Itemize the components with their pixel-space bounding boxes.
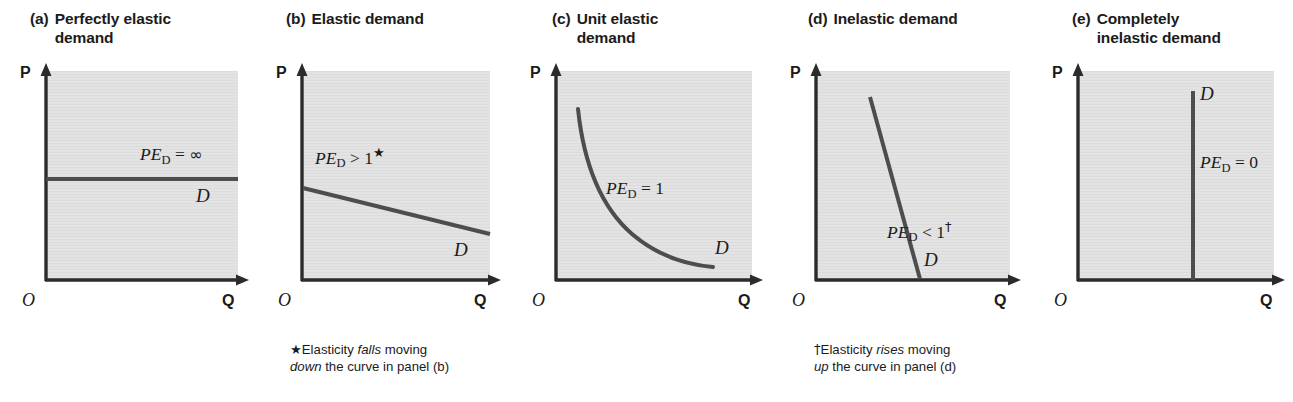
panel-e-title-line2: inelastic demand (1097, 29, 1221, 46)
x-axis-label: Q (738, 292, 750, 310)
panel-d-title: (d) Inelastic demand (808, 10, 1023, 29)
x-axis-label: Q (222, 292, 234, 310)
y-axis-label: P (530, 64, 541, 82)
x-axis-arrow (750, 275, 763, 286)
panel-e-title-text: Completely inelastic demand (1097, 10, 1287, 48)
origin-label: O (532, 290, 545, 311)
footnote-b-text2: moving (381, 342, 427, 357)
panel-b-svg (258, 62, 510, 324)
origin-label: O (22, 290, 35, 311)
x-axis-arrow (1272, 275, 1285, 286)
panel-b-footnote: ★Elasticity falls moving down the curve … (290, 342, 449, 376)
footnote-d-text2: moving (904, 342, 950, 357)
panel-c-title: (c) Unit elastic demand (552, 10, 752, 48)
demand-label-e: D (1200, 84, 1214, 103)
panel-e-title-line1: Completely (1097, 10, 1180, 27)
elasticity-figure: (a) Perfectly elastic demand P Q O (0, 0, 1293, 402)
origin-label: O (1054, 290, 1067, 311)
x-axis-arrow (236, 275, 249, 286)
panel-d-tag: (d) (808, 10, 828, 29)
elasticity-label-e: PED = 0 (1200, 154, 1258, 174)
y-axis-arrow (1073, 63, 1084, 76)
panel-b-title: (b) Elastic demand (286, 10, 501, 29)
star-marker-inline: ★ (373, 145, 385, 160)
panel-a-title-line2: demand (55, 29, 114, 46)
y-axis-arrow (41, 63, 52, 76)
demand-label-c: D (715, 238, 729, 257)
y-axis-label: P (276, 64, 287, 82)
footnote-b-text3: the curve in panel (b) (322, 359, 450, 374)
panel-e-svg (1030, 62, 1293, 324)
x-axis-label: Q (474, 292, 486, 310)
panel-c-title-line2: demand (577, 29, 636, 46)
footnote-d-em2: up (814, 359, 829, 374)
panel-a-tag: (a) (30, 10, 49, 29)
panel-e-tag: (e) (1072, 10, 1091, 29)
panel-e-title: (e) Completely inelastic demand (1072, 10, 1287, 48)
y-axis-arrow (551, 63, 562, 76)
y-axis-label: P (20, 64, 31, 82)
footnote-d-em1: rises (876, 342, 904, 357)
dagger-marker-inline: † (945, 219, 952, 234)
demand-label-b: D (454, 240, 468, 259)
panel-d-plot: P Q O PED < 1† (772, 62, 1030, 324)
elasticity-label-b: PED > 1★ (315, 146, 385, 170)
origin-label: O (278, 290, 291, 311)
panel-d-title-text: Inelastic demand (834, 10, 1024, 29)
panel-c-title-text: Unit elastic demand (577, 10, 752, 48)
panel-c-plot: P Q O PED = 1 D (510, 62, 772, 324)
panel-a-title-text: Perfectly elastic demand (55, 10, 235, 48)
panel-d-svg (772, 62, 1030, 324)
elasticity-label-c: PED = 1 (606, 180, 664, 200)
panel-d-footnote: †Elasticity rises moving up the curve in… (814, 342, 956, 376)
footnote-d-text3: the curve in panel (d) (829, 359, 957, 374)
panel-b: (b) Elastic demand P Q O (258, 0, 510, 402)
panel-e-plot: P Q O D PED = 0 (1030, 62, 1293, 324)
panel-c-tag: (c) (552, 10, 571, 29)
origin-label: O (792, 290, 805, 311)
demand-label-d: D (924, 250, 938, 269)
y-axis-arrow (297, 63, 308, 76)
panel-e: (e) Completely inelastic demand P Q O (1030, 0, 1293, 402)
star-icon: ★ (290, 342, 302, 357)
panel-b-plot: P Q O PED > 1★ (258, 62, 510, 324)
panel-b-tag: (b) (286, 10, 306, 29)
dagger-icon: † (814, 342, 821, 357)
panel-a-title: (a) Perfectly elastic demand (30, 10, 235, 48)
y-axis-label: P (790, 64, 801, 82)
panel-b-title-text: Elastic demand (312, 10, 502, 29)
footnote-b-em1: falls (358, 342, 381, 357)
panel-a-title-line1: Perfectly elastic (55, 10, 171, 27)
footnote-b-text1: Elasticity (302, 342, 358, 357)
panel-c-title-line1: Unit elastic (577, 10, 659, 27)
panel-d: (d) Inelastic demand P Q O (772, 0, 1030, 402)
panel-a: (a) Perfectly elastic demand P Q O (0, 0, 258, 402)
y-axis-arrow (811, 63, 822, 76)
demand-label-a: D (196, 186, 210, 205)
footnote-b-em2: down (290, 359, 322, 374)
elasticity-label-a: PED = ∞ (140, 146, 203, 166)
panel-a-plot: P Q O PED (0, 62, 258, 324)
panel-c: (c) Unit elastic demand P Q O (510, 0, 772, 402)
x-axis-arrow (488, 275, 501, 286)
elasticity-label-d: PED < 1† (887, 220, 952, 244)
x-axis-label: Q (1260, 292, 1272, 310)
y-axis-label: P (1052, 64, 1063, 82)
panel-a-svg (0, 62, 258, 324)
plot-area (1078, 71, 1274, 280)
footnote-d-text1: Elasticity (821, 342, 877, 357)
x-axis-label: Q (994, 292, 1006, 310)
plot-area (46, 71, 238, 280)
x-axis-arrow (1008, 275, 1021, 286)
